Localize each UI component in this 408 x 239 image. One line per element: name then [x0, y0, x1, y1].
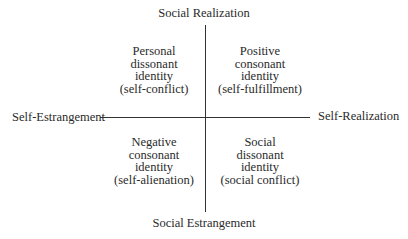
axis-label-bottom: Social Estrangement [0, 216, 408, 231]
quadrant-top-right: Positive consonant identity (self-fulfil… [205, 45, 315, 95]
quadrant-line: Social [205, 136, 315, 149]
quadrant-bottom-right: Social dissonant identity (social confli… [205, 136, 315, 186]
axis-label-top: Social Realization [0, 6, 408, 21]
axis-label-right: Self-Realization [318, 109, 399, 124]
quadrant-bottom-left: Negative consonant identity (self-aliena… [99, 136, 209, 186]
quadrant-line: (self-conflict) [99, 83, 209, 96]
horizontal-axis-line [100, 117, 310, 118]
quadrant-line: Positive [205, 45, 315, 58]
quadrant-line: identity [99, 70, 209, 83]
quadrant-line: Negative [99, 136, 209, 149]
quadrant-line: Personal [99, 45, 209, 58]
quadrant-line: identity [205, 70, 315, 83]
quadrant-line: (self-fulfillment) [205, 83, 315, 96]
quadrant-line: (self-alienation) [99, 174, 209, 187]
quadrant-line: identity [205, 161, 315, 174]
quadrant-line: identity [99, 161, 209, 174]
quadrant-top-left: Personal dissonant identity (self-confli… [99, 45, 209, 95]
axis-label-left: Self-Estrangement [12, 110, 105, 125]
quadrant-line: (social conflict) [205, 174, 315, 187]
